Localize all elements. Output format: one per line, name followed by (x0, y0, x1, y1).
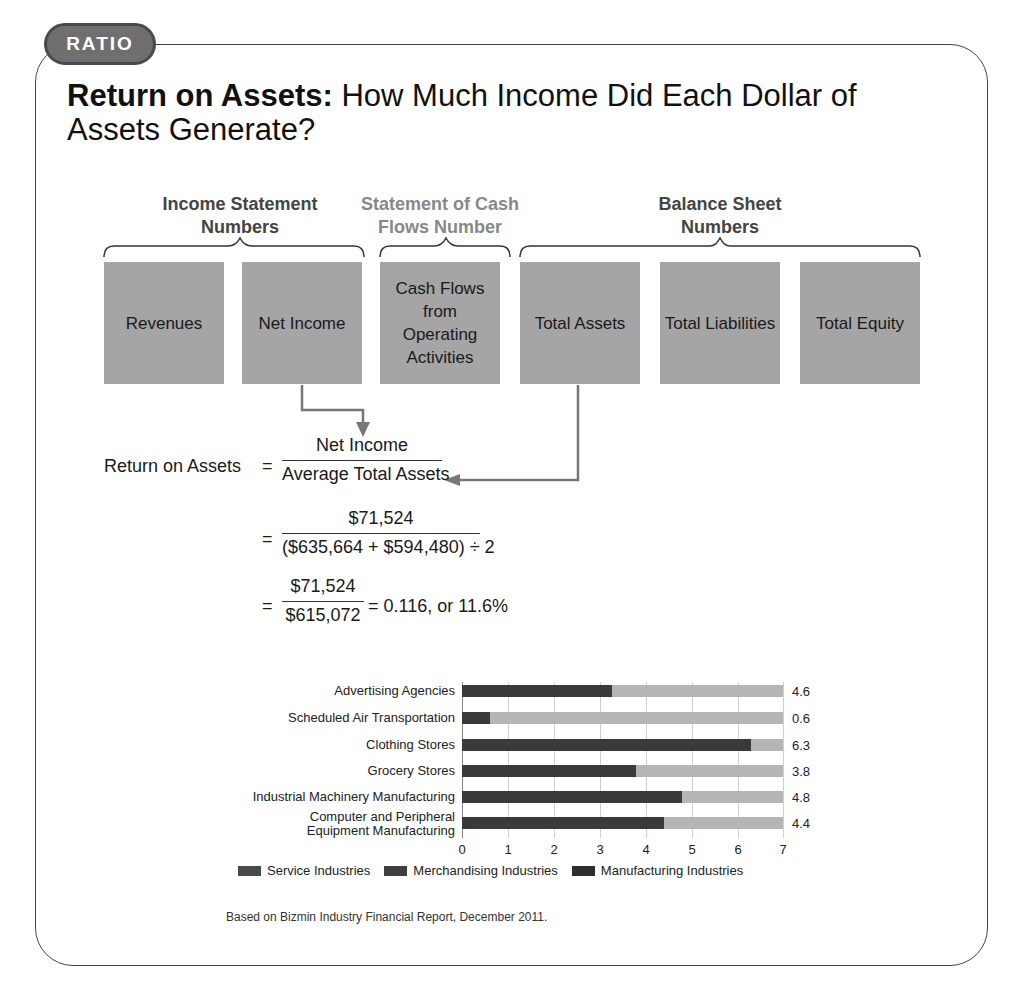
formula-equals-2: = (262, 529, 273, 550)
formula-step2-numerator: $71,524 (282, 508, 480, 534)
value-label: 4.8 (792, 790, 810, 805)
formula-step2: $71,524 ($635,664 + $594,480) ÷ 2 (282, 508, 480, 558)
legend-item-merchandising: Merchandising Industries (384, 863, 558, 878)
legend-swatch (572, 866, 595, 876)
value-label: 4.4 (792, 816, 810, 831)
category-label: Clothing Stores (366, 738, 455, 752)
gridline (783, 682, 784, 838)
legend-label: Merchandising Industries (413, 863, 558, 878)
formula-step3: $71,524 $615,072 (282, 576, 364, 626)
formula-step2-denominator: ($635,664 + $594,480) ÷ 2 (282, 534, 480, 558)
x-tick: 1 (498, 842, 518, 857)
legend-item-service: Service Industries (238, 863, 370, 878)
x-tick: 4 (636, 842, 656, 857)
connector-arrows (0, 0, 1025, 500)
gridline (646, 682, 647, 838)
gridline (508, 682, 509, 838)
gridline (738, 682, 739, 838)
axis-line (462, 682, 463, 838)
value-label: 3.8 (792, 764, 810, 779)
category-label: Scheduled Air Transportation (288, 711, 455, 725)
formula-step1-denominator: Average Total Assets (282, 461, 442, 485)
formula-equals-3: = (262, 596, 273, 617)
value-label: 0.6 (792, 711, 810, 726)
formula-step1: Net Income Average Total Assets (282, 435, 442, 485)
category-label: Computer and Peripheral (310, 810, 455, 824)
x-tick: 0 (452, 842, 472, 857)
value-label: 6.3 (792, 738, 810, 753)
category-label: Grocery Stores (368, 764, 455, 778)
category-label: Industrial Machinery Manufacturing (253, 790, 455, 804)
x-tick: 5 (682, 842, 702, 857)
legend-swatch (384, 866, 407, 876)
gridline (692, 682, 693, 838)
source-note: Based on Bizmin Industry Financial Repor… (226, 910, 547, 924)
value-label: 4.6 (792, 684, 810, 699)
formula-step3-numerator: $71,524 (282, 576, 364, 602)
x-tick: 6 (728, 842, 748, 857)
category-label: Equipment Manufacturing (307, 824, 455, 838)
category-label: Advertising Agencies (334, 684, 455, 698)
x-tick: 2 (544, 842, 564, 857)
formula-lhs: Return on Assets (104, 456, 241, 477)
chart-legend: Service Industries Merchandising Industr… (238, 863, 757, 878)
gridline (600, 682, 601, 838)
legend-item-manufacturing: Manufacturing Industries (572, 863, 743, 878)
gridline (554, 682, 555, 838)
formula-step1-numerator: Net Income (282, 435, 442, 461)
formula-equals-1: = (262, 456, 273, 477)
legend-swatch (238, 866, 261, 876)
legend-label: Manufacturing Industries (601, 863, 743, 878)
legend-label: Service Industries (267, 863, 370, 878)
x-tick: 3 (590, 842, 610, 857)
formula-result: = 0.116, or 11.6% (368, 596, 508, 617)
formula-step3-denominator: $615,072 (282, 602, 364, 626)
x-tick: 7 (773, 842, 793, 857)
